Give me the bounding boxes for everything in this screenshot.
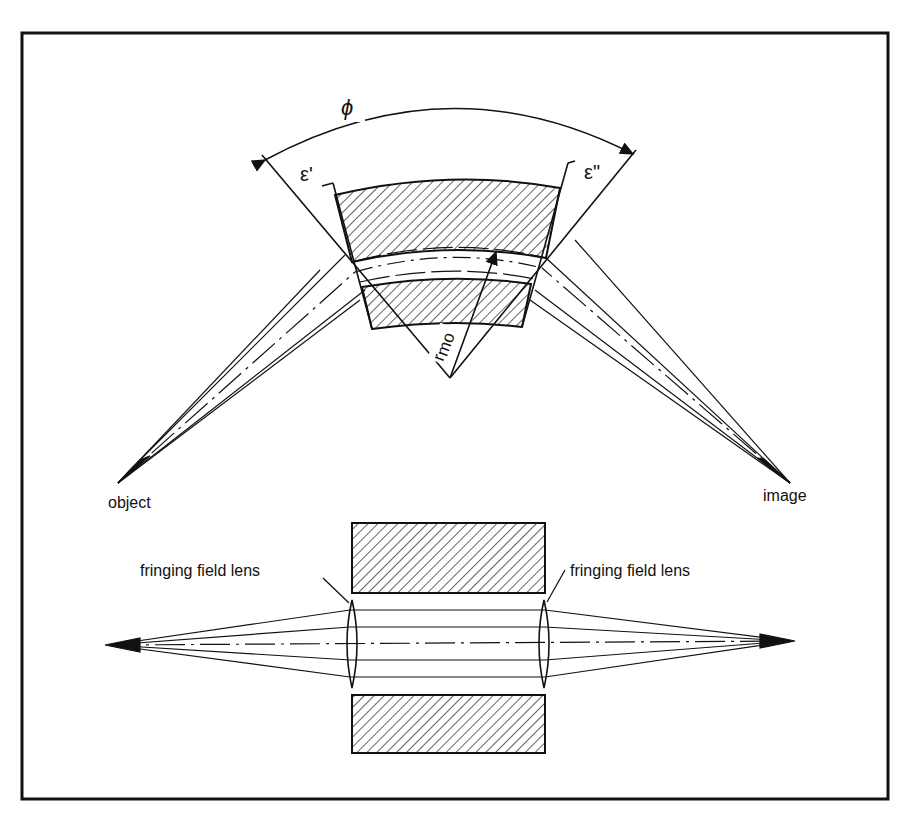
lower-pole-block xyxy=(352,695,545,753)
object-label: object xyxy=(108,494,151,511)
fringing-field-diagram: fringing field lens fringing field lens xyxy=(105,523,795,753)
figure-frame xyxy=(22,33,888,799)
upper-pole-piece xyxy=(335,179,560,262)
sector-magnet-diagram: ϕ ε' ε" rmo object image xyxy=(108,95,807,511)
object-beam xyxy=(118,255,365,483)
left-fringing-label: fringing field lens xyxy=(140,562,260,579)
epsilon-prime-label: ε' xyxy=(300,163,313,185)
upper-pole-block xyxy=(352,523,545,593)
epsilon-double-prime-label: ε" xyxy=(584,161,600,183)
image-label: image xyxy=(763,487,807,504)
magnet-diagram-figure: ϕ ε' ε" rmo object image xyxy=(0,0,909,815)
image-beam xyxy=(530,240,790,483)
right-fringing-label: fringing field lens xyxy=(570,562,690,579)
right-lens-symbol xyxy=(539,600,549,688)
phi-label: ϕ xyxy=(341,95,353,120)
